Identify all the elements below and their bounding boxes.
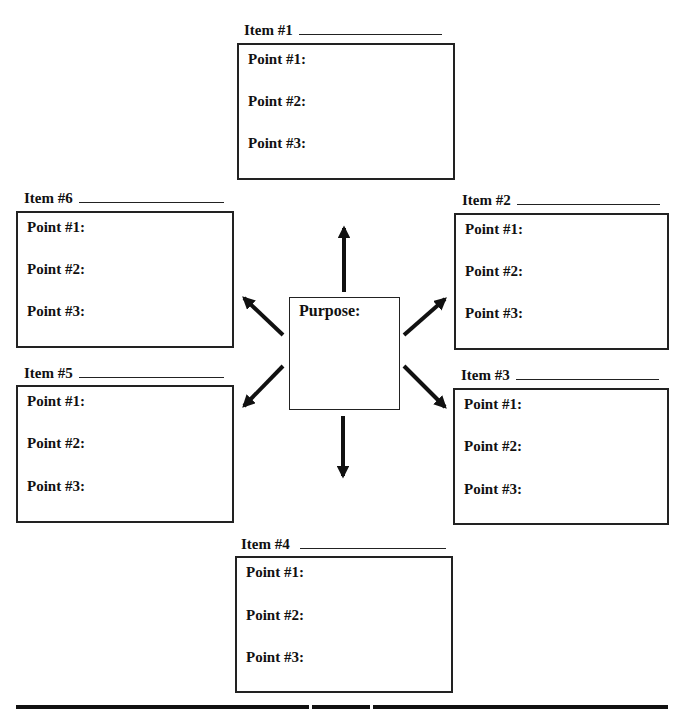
arrow-lower-right-icon bbox=[404, 366, 445, 407]
bottom-bar-segment-1 bbox=[16, 705, 309, 709]
arrow-upper-left-icon bbox=[244, 298, 283, 335]
bottom-bar-segment-3 bbox=[373, 705, 668, 709]
arrow-lower-left-icon bbox=[244, 366, 283, 406]
bottom-bar-segment-2 bbox=[312, 705, 370, 709]
arrow-upper-right-icon bbox=[404, 299, 445, 335]
